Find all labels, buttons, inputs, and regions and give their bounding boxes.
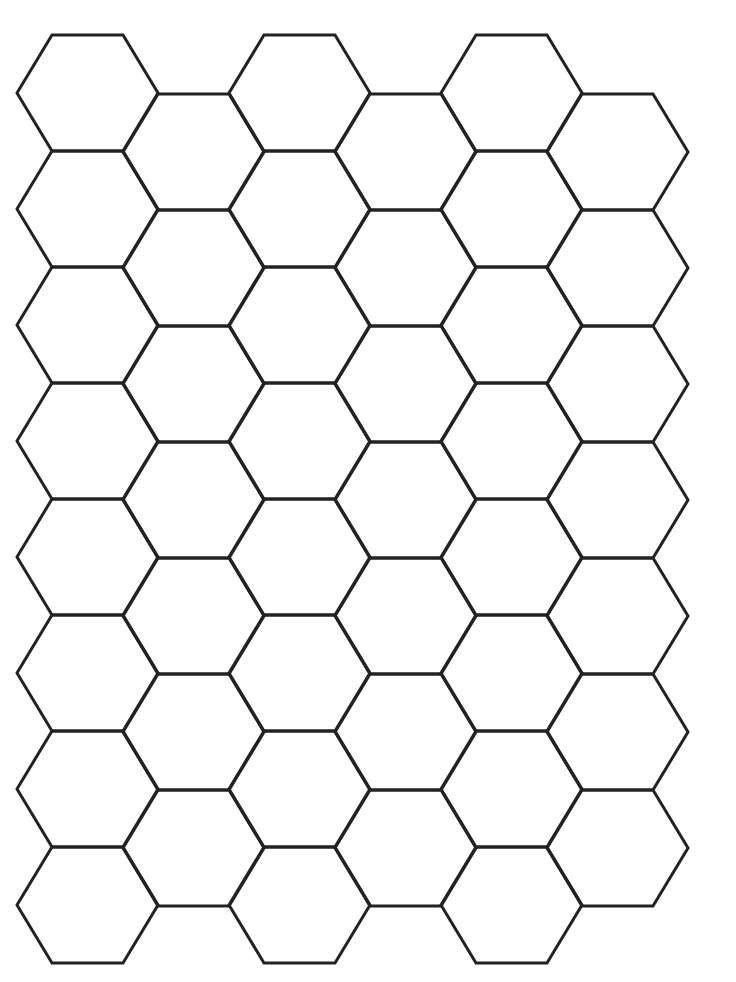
paper-background: [0, 0, 736, 982]
hexagon-grid: [0, 0, 736, 982]
